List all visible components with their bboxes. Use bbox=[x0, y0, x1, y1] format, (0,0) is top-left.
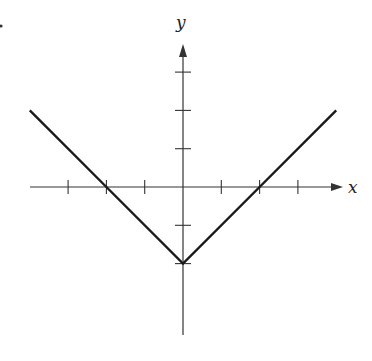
axes bbox=[30, 44, 343, 335]
y-axis-arrow-icon bbox=[179, 44, 187, 57]
y-axis-label: y bbox=[175, 12, 186, 32]
v-shaped-graph: x y bbox=[0, 0, 372, 361]
corner-dot bbox=[0, 24, 3, 27]
x-axis-label: x bbox=[348, 177, 358, 197]
x-axis-arrow-icon bbox=[331, 183, 343, 191]
